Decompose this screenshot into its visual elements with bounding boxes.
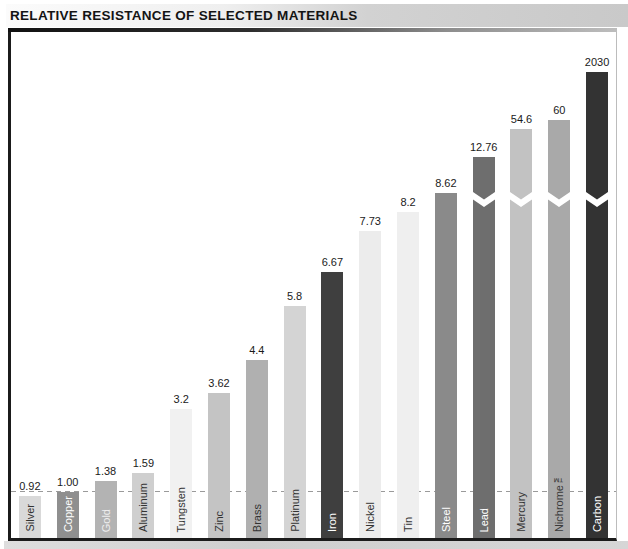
value-label: 7.73 (360, 215, 381, 227)
bar-iron: 6.67Iron (314, 32, 352, 538)
material-label: Tungsten (175, 487, 188, 532)
material-label: Lead (477, 508, 490, 532)
value-label: 60 (553, 104, 565, 116)
axis-break-icon (510, 191, 532, 207)
value-label: 4.4 (249, 344, 264, 356)
chart-frame: 0.92Silver1.00Copper1.38Gold1.59Aluminum… (8, 28, 617, 541)
material-label: Zinc (212, 511, 225, 532)
bar-silver: 0.92Silver (11, 32, 49, 538)
value-label: 6.67 (322, 256, 343, 268)
value-label: 0.92 (19, 480, 40, 492)
bar-rect: 8.2Tin (397, 212, 419, 538)
axis-break-icon (586, 191, 608, 207)
bar-rect: 5.8Platinum (284, 306, 306, 538)
material-label: Platinum (288, 489, 301, 532)
bar-rect: 12.76Lead (473, 157, 495, 538)
bar-gold: 1.38Gold (87, 32, 125, 538)
bar-mercury: 54.6Mercury (503, 32, 541, 538)
bar-rect: 8.62Steel (435, 193, 457, 538)
bar-rect: 4.4Brass (246, 360, 268, 538)
value-label: 8.2 (400, 196, 415, 208)
bar-platinum: 5.8Platinum (276, 32, 314, 538)
value-label: 3.62 (208, 377, 229, 389)
material-label: Brass (250, 504, 263, 532)
material-label: Silver (23, 504, 36, 532)
material-label: Nichrome™ (553, 473, 566, 532)
bar-tungsten: 3.2Tungsten (162, 32, 200, 538)
bar-copper: 1.00Copper (49, 32, 87, 538)
bar-rect: 1.00Copper (57, 492, 79, 538)
material-label: Iron (326, 513, 339, 532)
material-label: Carbon (591, 496, 604, 532)
material-label: Aluminum (137, 483, 150, 532)
value-label: 5.8 (287, 290, 302, 302)
bar-brass: 4.4Brass (238, 32, 276, 538)
value-label: 1.00 (57, 476, 78, 488)
bar-rect: 6.67Iron (321, 272, 343, 538)
material-label: Steel (439, 507, 452, 532)
bar-carbon: 2030Carbon (578, 32, 616, 538)
value-label: 8.62 (435, 177, 456, 189)
bar-lead: 12.76Lead (465, 32, 503, 538)
axis-break-icon (473, 191, 495, 207)
bar-aluminum: 1.59Aluminum (124, 32, 162, 538)
chart-title: RELATIVE RESISTANCE OF SELECTED MATERIAL… (6, 8, 358, 23)
bar-rect: 54.6Mercury (510, 129, 532, 538)
bar-rect: 1.59Aluminum (132, 473, 154, 538)
bar-rect: 1.38Gold (95, 481, 117, 538)
plot-area: 0.92Silver1.00Copper1.38Gold1.59Aluminum… (11, 32, 616, 538)
bar-tin: 8.2Tin (389, 32, 427, 538)
value-label: 1.38 (95, 465, 116, 477)
bar-rect: 2030Carbon (586, 72, 608, 538)
bar-nichrome: 60Nichrome™ (540, 32, 578, 538)
page-edge-shadow (4, 541, 628, 549)
bar-steel: 8.62Steel (427, 32, 465, 538)
material-label: Nickel (364, 502, 377, 532)
material-label: Tin (402, 517, 415, 532)
bar-rect: 0.92Silver (19, 496, 41, 538)
value-label: 12.76 (470, 141, 498, 153)
bar-rect: 60Nichrome™ (548, 120, 570, 538)
material-label: Copper (61, 496, 74, 532)
value-label: 1.59 (133, 457, 154, 469)
value-label: 3.2 (174, 393, 189, 405)
bar-nickel: 7.73Nickel (351, 32, 389, 538)
bar-rect: 3.2Tungsten (170, 409, 192, 538)
bar-zinc: 3.62Zinc (200, 32, 238, 538)
bar-rect: 7.73Nickel (359, 231, 381, 538)
bar-rect: 3.62Zinc (208, 393, 230, 538)
value-label: 54.6 (511, 113, 532, 125)
value-label: 2030 (585, 56, 609, 68)
material-label: Gold (99, 509, 112, 532)
chart-title-bar: RELATIVE RESISTANCE OF SELECTED MATERIAL… (6, 4, 628, 27)
axis-break-icon (548, 191, 570, 207)
material-label: Mercury (515, 492, 528, 532)
